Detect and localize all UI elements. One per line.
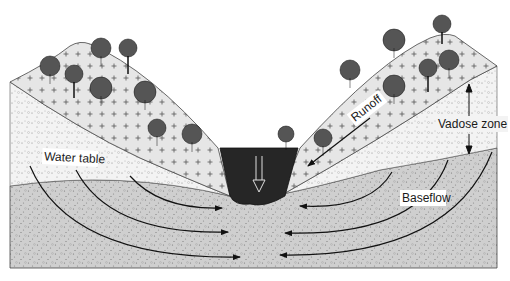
- stream-cross-section-diagram: Runoff Vadose zone Water table Baseflow: [0, 0, 510, 281]
- label-baseflow: Baseflow: [400, 190, 451, 206]
- svg-text:Baseflow: Baseflow: [402, 191, 451, 205]
- label-vadose-zone: Vadose zone: [436, 116, 508, 132]
- svg-text:Vadose zone: Vadose zone: [438, 117, 507, 131]
- tree-icon: [340, 60, 360, 88]
- tree-icon: [278, 126, 294, 150]
- label-water-table: Water table: [42, 148, 106, 167]
